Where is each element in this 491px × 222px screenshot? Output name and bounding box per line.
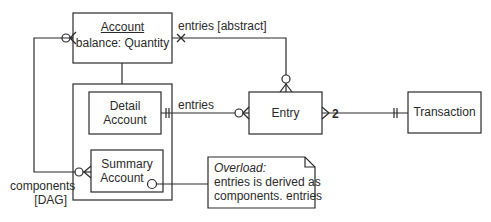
note-line1: entries is derived as: [214, 175, 321, 189]
detail-account-line2: Account: [89, 113, 161, 127]
detail-entries-label: entries: [178, 98, 214, 112]
components-line: [34, 38, 75, 172]
note-line2: components. entries: [214, 189, 322, 203]
crowfoot-icon: [280, 84, 286, 92]
cardinality-label: 2: [332, 107, 339, 121]
summary-account-line1: Summary: [91, 157, 163, 171]
account-attribute: balance: Quantity: [73, 36, 172, 50]
account-name: Account: [73, 20, 172, 34]
transaction-name: Transaction: [408, 105, 481, 119]
entry-name: Entry: [249, 106, 322, 120]
optional-circle-icon: [282, 75, 290, 83]
optional-circle-icon: [235, 109, 243, 117]
components-label-line2: [DAG]: [10, 193, 67, 207]
account-entries-line: [172, 38, 286, 75]
optional-circle-icon: [75, 168, 83, 176]
crowfoot-icon: [322, 107, 329, 113]
note-title: Overload:: [214, 161, 266, 175]
components-label-line1: components: [10, 179, 67, 193]
account-entries-label: entries [abstract]: [178, 19, 267, 33]
summary-account-line2: Account: [86, 171, 158, 185]
detail-account-line1: Detail: [89, 99, 161, 113]
